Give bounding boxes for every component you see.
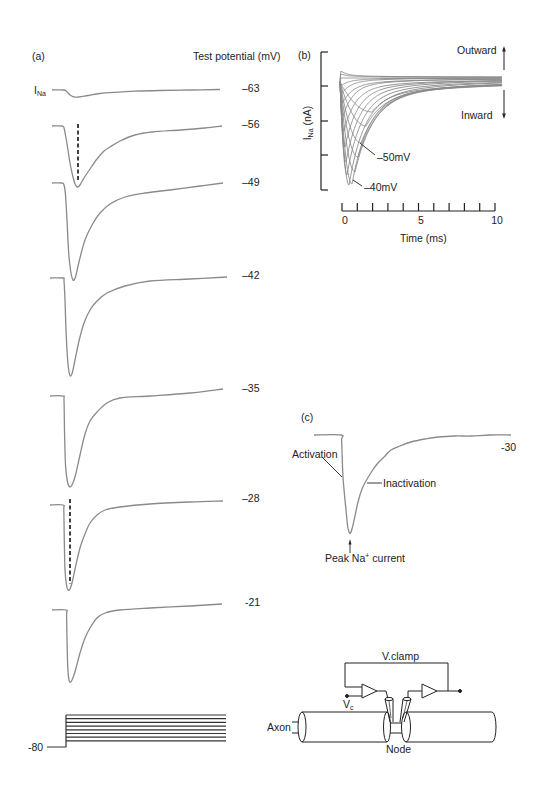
panel-c-leaders	[323, 458, 382, 483]
holding-potential-label: -80	[28, 741, 43, 753]
y-label-unit: (nA)	[301, 106, 313, 129]
axon-right-segment	[402, 712, 497, 742]
current-trace	[52, 90, 220, 98]
panel-c-label: (c)	[301, 411, 313, 423]
panel-c-potential-label: -30	[501, 441, 516, 453]
y-label-main: I	[301, 137, 313, 140]
voltage-clamp-diagram	[292, 663, 496, 742]
test-potential-legend-title: Test potential (mV)	[193, 50, 281, 62]
panel-b-x-axis	[342, 203, 495, 211]
vc-subscript: c	[350, 704, 354, 711]
trace-label-49: –49	[242, 176, 260, 188]
annotation-minus-50mv: –50mV	[377, 151, 410, 163]
panel-b-y-axis-label: INa (nA)	[301, 103, 315, 143]
leader-50mv	[360, 143, 375, 155]
panel-b-x-axis-label: Time (ms)	[400, 232, 447, 244]
right-amplifier-icon	[422, 684, 437, 698]
outward-arrow-icon	[502, 46, 506, 70]
peak-label-main: Peak Na	[325, 552, 365, 564]
inward-arrow-icon	[502, 90, 506, 119]
vc-main: V	[343, 698, 350, 710]
x-tick-label-10: 10	[491, 214, 503, 226]
voltage-step-protocol	[47, 715, 226, 747]
leader-40mv	[353, 180, 362, 186]
output-terminal	[459, 690, 462, 693]
trace-label-56: –56	[242, 118, 260, 130]
left-electrode-icon	[385, 697, 393, 722]
peak-arrow-icon	[349, 539, 352, 553]
activation-label: Activation	[292, 448, 338, 460]
node-of-ranvier	[390, 723, 402, 733]
x-tick-label-5: 5	[418, 214, 424, 226]
vclamp-label: V.clamp	[382, 650, 419, 662]
holding-potential-line	[47, 715, 66, 747]
ina-label-subscript: Na	[37, 90, 46, 97]
peak-label-superscript: +	[365, 552, 369, 559]
annotation-minus-40mv: –40mV	[364, 181, 397, 193]
outward-label: Outward	[457, 44, 497, 56]
current-trace	[50, 389, 223, 487]
inactivation-label: Inactivation	[383, 477, 436, 489]
axon-label: Axon	[267, 721, 291, 733]
panel-b-label: (b)	[298, 49, 311, 61]
axon-left-segment	[292, 712, 391, 742]
panel-b-y-axis	[321, 52, 328, 190]
command-voltage-label: Vc	[343, 698, 354, 712]
peak-current-label: Peak Na+ current	[325, 552, 405, 566]
trace-label-21: -21	[245, 596, 260, 608]
current-trace	[52, 183, 223, 281]
trace-label-63: –63	[242, 82, 260, 94]
trace-label-28: –28	[242, 492, 260, 504]
current-trace	[52, 604, 222, 682]
activation-leader	[323, 458, 342, 477]
panel-b-traces	[340, 71, 502, 185]
current-trace	[50, 277, 227, 376]
left-amplifier-icon	[362, 684, 377, 698]
current-trace	[50, 501, 223, 590]
trace-label-35: –35	[242, 382, 260, 394]
peak-label-rest: current	[369, 552, 405, 564]
panel-a-label: (a)	[32, 50, 45, 62]
y-label-subscript: Na	[307, 128, 314, 137]
panel-a-traces	[50, 90, 227, 683]
ina-label: INa	[34, 84, 46, 98]
node-label: Node	[386, 743, 411, 755]
x-tick-label-0: 0	[342, 214, 348, 226]
figure-page: (a) Test potential (mV) INa –63 –56 –49 …	[0, 0, 542, 797]
inward-label: Inward	[461, 109, 493, 121]
family-current-trace	[340, 82, 502, 185]
trace-label-42: –42	[242, 269, 260, 281]
family-current-trace	[340, 82, 502, 184]
